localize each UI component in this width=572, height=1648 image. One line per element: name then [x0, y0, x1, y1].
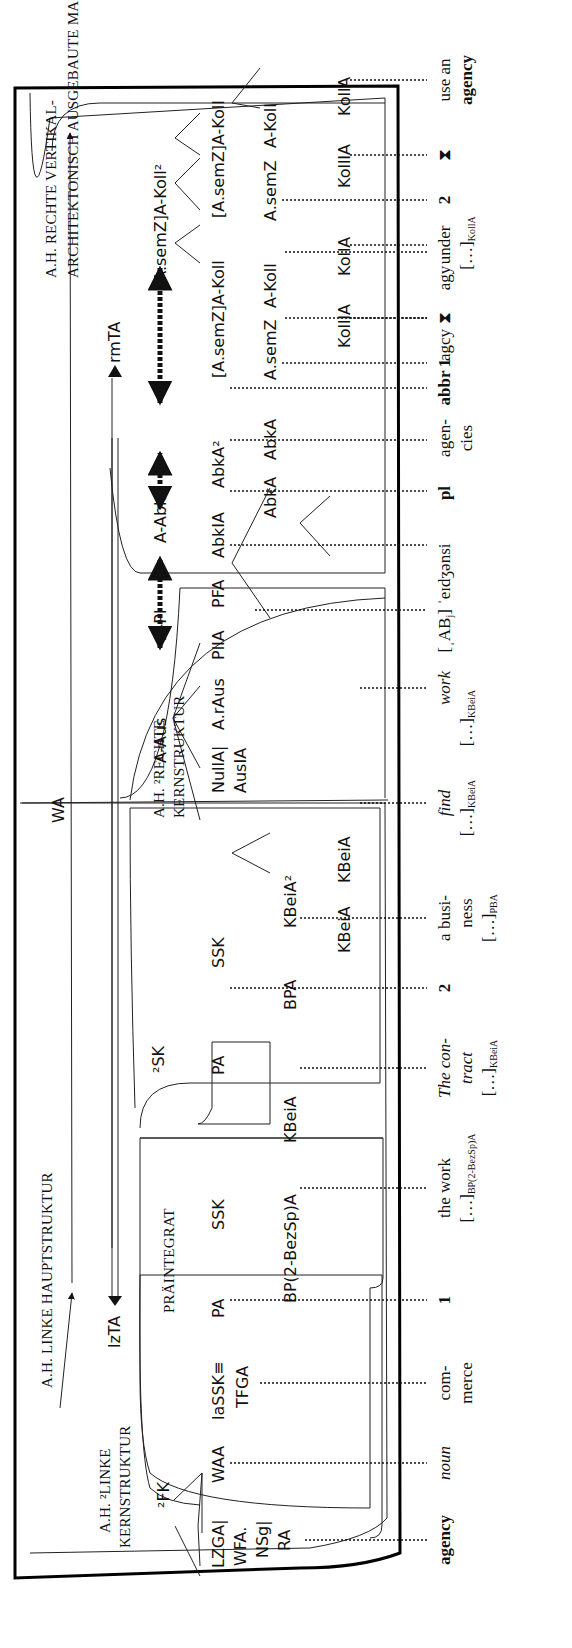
text-sense-2b: 2: [436, 196, 454, 205]
text-work-bracket: […]KBeiA: [458, 690, 481, 747]
text-pl: pl: [436, 486, 454, 500]
node-BPA: BPA: [282, 979, 300, 1010]
text-commerce-2: merce: [458, 1362, 476, 1404]
text-find-bracket: […]KBeiA: [458, 780, 481, 837]
bracket-ellipsis: […]: [457, 808, 476, 836]
node-A-semZ-A-Koll2: [A.semZ]A-Koll²: [152, 164, 170, 288]
bracket-subscript: KBeiA: [488, 1040, 499, 1068]
node-PFA: PFA: [210, 580, 228, 608]
left-main-structure-label: A.H. LINKE HAUPTSTRUKTUR: [38, 1172, 56, 1388]
node-BP2BezSpA: BP(2-BezSp)A: [282, 1194, 300, 1303]
node-laSSK: laSSK≡: [210, 1362, 228, 1420]
node-PA-1: PA: [210, 1298, 228, 1318]
node-KollA-2: KollA: [336, 77, 354, 116]
node-A-semZ-A-Koll-1: [A.semZ]A-Koll: [210, 260, 228, 378]
node-LZGA: LZGA|: [210, 1519, 228, 1568]
node-AbkA2-sup: AbkA²: [210, 440, 228, 488]
node-PA-2: PA: [210, 1055, 228, 1075]
text-agencies-2: cies: [458, 425, 476, 451]
node-RA: RA: [276, 1530, 294, 1551]
text-sense-2: 2: [436, 984, 454, 993]
node-A-semZ-A-Koll-2: [A.semZ]A-Koll: [210, 100, 228, 218]
article-structure-diagram: A.H. LINKE HAUPTSTRUKTUR A.H. ²LINKE KER…: [0, 0, 572, 1648]
text-triangle-1: ⧗: [436, 312, 454, 324]
node-A-rAus: A.rAus: [210, 678, 228, 730]
bracket-ellipsis: […]: [457, 241, 476, 269]
text-find: find: [436, 790, 454, 816]
text-contract-2: tract: [458, 1052, 476, 1084]
right-core-structure-label-2: KERNSTRUKTUR: [170, 696, 188, 818]
node-lzTA: lzTA: [106, 1316, 124, 1348]
text-under-bracket: […]KollA: [458, 216, 481, 269]
node-KBeiA-3: KBeiA: [336, 836, 354, 883]
text-use-an: use an: [436, 59, 454, 102]
node-KBeiA-2: KBeiA: [336, 906, 354, 953]
text-contract-bracket: […]KBeiA: [480, 1040, 503, 1097]
right-margin-structure-label-2: ARCHITEKTONISCH AUSGEBAUTE MARGINALSTRUK…: [64, 0, 82, 278]
text-agcy: agcy: [436, 329, 454, 361]
node-AbkA-1: AbkA: [262, 477, 280, 518]
diagram-lines: [0, 0, 572, 1648]
preintegrate-label: PRÄINTEGRAT: [160, 1208, 178, 1313]
node-A-semZ-1: A.semZ: [262, 320, 280, 380]
text-work: work: [436, 671, 454, 705]
text-contract-1: The con-: [436, 1038, 454, 1098]
node-KollA-1: KollA: [336, 237, 354, 276]
node-KollIA-1: KollIA: [336, 304, 354, 348]
pron-transcription: ] ˈeɪdʒənsi: [435, 543, 454, 614]
node-2FK: ²FK: [155, 1482, 173, 1508]
text-triangle-2: ⧗: [436, 149, 454, 161]
bracket-ellipsis: […]: [479, 1068, 498, 1096]
text-agencies-1: agen-: [436, 419, 454, 457]
bracket-subscript: KBeiA: [466, 690, 477, 718]
bracket-ellipsis: […]: [457, 1194, 476, 1222]
node-A-semZ-2: A.semZ: [262, 161, 280, 221]
text-the-work: the work: [436, 1158, 454, 1218]
node-TFGA: TFGA: [234, 1366, 252, 1408]
node-WFA: WFA.: [232, 1527, 250, 1566]
text-sense-1: 1: [436, 1296, 454, 1305]
node-NSg: NSg|: [254, 1520, 272, 1558]
right-margin-structure-label-1: A.H. RECHTE VERTIKAL-: [42, 100, 60, 278]
node-KBeiA2-sup: KBeiA²: [282, 875, 300, 928]
node-WAA: WAA: [210, 1446, 228, 1483]
bracket-subscript: BP(2-BezSp)A: [466, 1134, 477, 1195]
bracket-ellipsis: […]: [457, 718, 476, 746]
node-A-Abk: A-Abk: [152, 497, 170, 543]
bracket-ellipsis: […]: [479, 914, 498, 942]
node-A-Koll-1: A-Koll: [262, 263, 280, 308]
text-agy: agy: [436, 266, 454, 291]
left-core-structure-label-1: A.H. ²LINKE: [96, 1448, 114, 1533]
node-2SK: ²SK: [150, 1046, 168, 1073]
left-core-structure-label-2: KERNSTRUKTUR: [116, 1426, 134, 1548]
tree-branches: [173, 68, 330, 1576]
text-pronunciation: [ˌABj] ˈeɪdʒənsi: [436, 543, 459, 652]
text-agency-end: agency: [458, 55, 476, 105]
node-AbkIA: AbkIA: [210, 512, 228, 558]
text-sense-1b: 1: [436, 359, 454, 368]
node-A-Koll-2: A-Koll: [262, 103, 280, 148]
node-A-Pl: A-Pl: [152, 610, 170, 640]
bracket-subscript: KollA: [466, 216, 477, 241]
text-under: under: [436, 226, 454, 265]
text-commerce-1: com-: [436, 1366, 454, 1401]
node-PlIA: PlIA: [210, 630, 228, 660]
text-business-1: a busi-: [436, 895, 454, 941]
text-abbr: abbr: [436, 371, 454, 406]
text-business-2: ness: [458, 898, 476, 927]
node-A-Aus: A-Aus: [152, 718, 170, 763]
text-business-bracket: […]PBA: [480, 894, 503, 942]
node-SSK-2: SSK: [210, 937, 228, 968]
bracket-subscript: PBA: [488, 894, 499, 913]
pron-prefix: [ˌAB: [435, 618, 454, 653]
node-KBeiA-1: KBeiA: [282, 1096, 300, 1143]
node-AbkA-2: AbkA: [262, 419, 280, 460]
node-rmTA: rmTA: [106, 322, 124, 363]
node-NullA: NullA|: [210, 746, 228, 793]
text-noun: noun: [436, 1446, 454, 1480]
text-the-work-bracket: […]BP(2-BezSp)A: [458, 1134, 481, 1223]
pron-subscript: j: [444, 615, 455, 618]
text-agency: agency: [436, 1515, 454, 1565]
node-KollIA-2: KollIA: [336, 144, 354, 188]
bracket-subscript: KBeiA: [466, 780, 477, 808]
